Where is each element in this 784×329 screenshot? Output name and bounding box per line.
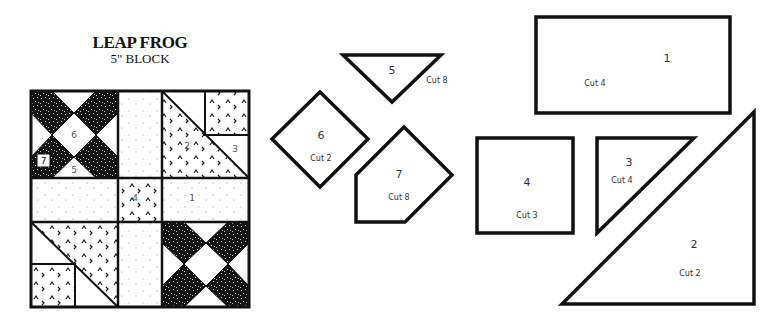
piece-4-cut: Cut 3 [516,211,537,220]
quadrant-top-right [162,91,249,178]
template-piece-1 [536,17,730,113]
block-label-2: 2 [184,141,190,151]
piece-7-number: 7 [396,168,403,181]
piece-6-number: 6 [318,129,325,142]
piece-2-number: 2 [691,238,698,251]
piece-1-cut: Cut 4 [584,79,605,88]
piece-2-cut: Cut 2 [679,269,700,278]
sashing-left [31,178,118,222]
sashing-top [118,91,162,178]
piece-3-cut: Cut 4 [611,176,632,185]
block-label-6: 6 [71,130,77,140]
block-label-5: 5 [71,165,77,175]
piece-5-cut: Cut 8 [426,76,447,85]
block-label-3: 3 [232,144,238,154]
sashing-bottom [118,222,162,307]
quadrant-bottom-left [31,222,118,307]
center-square [118,178,162,222]
piece-7-cut: Cut 8 [388,193,409,202]
piece-5-number: 5 [389,64,396,77]
block-label-4: 4 [132,193,138,203]
piece-3-number: 3 [626,156,633,169]
block-label-7: 7 [41,156,47,166]
quilt-block: 6 7 5 2 3 4 1 [31,91,249,307]
template-piece-7 [356,127,452,222]
block-label-1: 1 [189,193,195,203]
pattern-diagram: 6 7 5 2 3 4 1 5 Cut 8 6 Cut 2 7 Cut 8 1 … [0,0,784,329]
quadrant-bottom-right [162,222,249,307]
sashing-right [162,178,249,222]
piece-6-cut: Cut 2 [310,154,331,163]
piece-1-number: 1 [664,52,671,65]
piece-4-number: 4 [524,176,531,189]
